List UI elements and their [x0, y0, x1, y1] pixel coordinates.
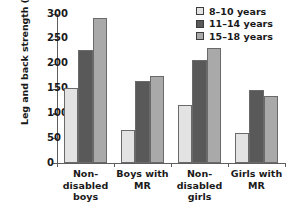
legend-swatch-icon: [196, 32, 204, 40]
bar: [135, 81, 150, 163]
bar-chart-figure: Leg and back strength (kg) 0501001502002…: [0, 0, 293, 216]
legend-label: 15–18 years: [209, 31, 273, 42]
bar: [264, 96, 279, 163]
legend-item: 8–10 years: [196, 5, 273, 18]
legend-item: 11–14 years: [196, 18, 273, 31]
legend-swatch-icon: [196, 7, 204, 15]
legend-label: 8–10 years: [209, 6, 266, 17]
legend-item: 15–18 years: [196, 30, 273, 43]
bar: [207, 48, 222, 163]
bar: [249, 90, 264, 163]
bar: [178, 105, 193, 163]
bar: [121, 130, 136, 163]
chart-legend: 8–10 years11–14 years15–18 years: [196, 5, 273, 43]
x-tick-2: [171, 163, 172, 167]
legend-label: 11–14 years: [209, 18, 273, 29]
bar: [93, 18, 108, 163]
x-axis-label: Girls with MR: [228, 168, 285, 191]
x-tick-0: [57, 163, 58, 167]
x-tick-4: [285, 163, 286, 167]
bar: [192, 60, 207, 163]
x-tick-1: [114, 163, 115, 167]
bar: [78, 50, 93, 163]
bar-group: [114, 14, 171, 163]
legend-swatch-icon: [196, 20, 204, 28]
bar: [150, 76, 165, 163]
x-axis-label: Non- disabled boys: [57, 168, 114, 203]
bar: [235, 133, 250, 163]
x-axis-label: Boys with MR: [114, 168, 171, 191]
bar: [64, 88, 79, 163]
y-axis-title: Leg and back strength (kg): [19, 0, 30, 134]
bar-group: [57, 14, 114, 163]
x-tick-3: [228, 163, 229, 167]
x-axis-label: Non- disabled girls: [171, 168, 228, 203]
